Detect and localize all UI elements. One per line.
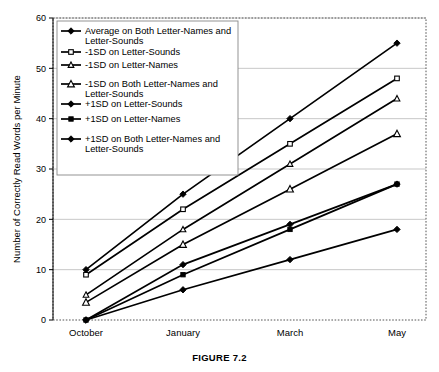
series-5	[84, 182, 399, 322]
legend-label-continued: Letter-Sounds	[85, 144, 144, 154]
data-point-marker	[394, 226, 400, 232]
legend-label: -1SD on Both Letter-Names and	[85, 79, 218, 89]
x-category-label-january: January	[166, 327, 200, 338]
y-tick-label-50: 50	[36, 64, 46, 74]
y-tick-label-30: 30	[36, 164, 46, 174]
x-axis-category-labels: OctoberJanuaryMarchMay	[69, 327, 406, 338]
line-chart: 0102030405060 OctoberJanuaryMarchMay Num…	[0, 0, 439, 372]
data-point-marker	[395, 76, 400, 81]
legend-label: +1SD on Letter-Sounds	[85, 99, 183, 109]
data-point-marker	[394, 130, 401, 136]
data-point-marker	[288, 227, 292, 231]
y-axis-title-text: Number of Correctly Read Words per Minut…	[11, 75, 22, 263]
y-tick-label-60: 60	[36, 13, 46, 23]
figure-container: 0102030405060 OctoberJanuaryMarchMay Num…	[0, 0, 439, 372]
legend-label-continued: Letter-Sounds	[85, 36, 144, 46]
legend-label: Average on Both Letter-Names and	[85, 26, 231, 36]
data-point-marker	[394, 96, 400, 101]
data-point-marker	[83, 299, 90, 305]
legend-label: +1SD on Letter-Names	[85, 114, 181, 124]
data-point-marker	[395, 182, 399, 186]
data-point-marker	[287, 221, 293, 227]
y-tick-label-40: 40	[36, 114, 46, 124]
figure-caption: FIGURE 7.2	[0, 352, 439, 363]
data-point-marker	[69, 117, 73, 121]
data-point-marker	[84, 272, 89, 277]
series-line	[86, 184, 397, 320]
series-6	[83, 226, 400, 323]
legend-label-continued: Letter-Sounds	[85, 89, 144, 99]
x-category-label-march: March	[277, 327, 303, 338]
data-point-marker	[180, 287, 186, 293]
y-tick-label-20: 20	[36, 215, 46, 225]
legend-label: -1SD on Letter-Sounds	[85, 47, 180, 57]
data-point-marker	[181, 273, 185, 277]
data-point-marker	[288, 142, 293, 147]
x-category-label-october: October	[69, 327, 103, 338]
legend-label: +1SD on Both Letter-Names and	[85, 134, 220, 144]
data-point-marker	[287, 256, 293, 262]
legend-label: -1SD on Letter-Names	[85, 60, 178, 70]
y-tick-label-0: 0	[41, 315, 46, 325]
y-axis-tick-labels: 0102030405060	[36, 13, 46, 325]
chart-legend: Average on Both Letter-Names andLetter-S…	[57, 21, 238, 175]
y-tick-label-10: 10	[36, 265, 46, 275]
data-point-marker	[181, 207, 186, 212]
y-axis-title: Number of Correctly Read Words per Minut…	[11, 75, 22, 263]
x-category-label-may: May	[388, 327, 406, 338]
data-point-marker	[69, 50, 74, 55]
